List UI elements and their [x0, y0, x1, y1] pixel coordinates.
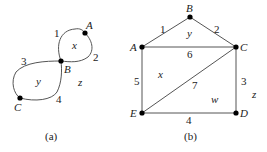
face-label-a-z: z	[77, 76, 83, 88]
edge-label-b-1: 1	[160, 23, 166, 35]
vertex-label-a-C: C	[14, 101, 22, 113]
edge-label-b-7: 7	[192, 79, 198, 91]
edge-label-b-2: 2	[214, 23, 220, 35]
vertex-label-b-D: D	[239, 107, 248, 119]
edge-label-a-1: 1	[54, 27, 60, 39]
vertex-label-b-A: A	[129, 41, 137, 53]
face-label-b-y: y	[186, 27, 192, 39]
vertex-a-B	[58, 58, 63, 63]
face-label-a-x: x	[71, 39, 77, 51]
face-label-b-w: w	[211, 93, 219, 105]
caption-a: (a)	[45, 130, 58, 143]
vertex-label-b-E: E	[129, 107, 137, 119]
vertex-b-D	[233, 110, 238, 115]
caption-b: (b)	[184, 130, 197, 143]
edge-label-b-3: 3	[241, 75, 247, 87]
face-label-b-z: z	[251, 88, 257, 100]
edge-label-a-3: 3	[21, 55, 27, 67]
vertex-a-A	[82, 30, 87, 35]
figure-a: A B C 1 2 3 4 x y z (a)	[13, 19, 98, 143]
face-label-a-y: y	[35, 75, 41, 87]
vertex-label-b-B: B	[186, 2, 193, 14]
edge-label-b-6: 6	[187, 48, 193, 60]
figure-b: A B C D E 1 2 3 4 5 6 7 y x w z (b)	[129, 2, 257, 143]
edge-label-a-2: 2	[93, 51, 99, 63]
vertex-b-E	[139, 110, 144, 115]
vertex-b-C	[233, 44, 238, 49]
edge-label-b-5: 5	[134, 75, 140, 87]
edge-b-1	[142, 17, 190, 47]
vertex-label-b-C: C	[240, 41, 248, 53]
vertex-a-C	[17, 95, 22, 100]
edge-b-2	[190, 17, 236, 47]
vertex-label-a-B: B	[64, 63, 71, 75]
vertex-b-A	[139, 44, 144, 49]
vertex-label-a-A: A	[85, 19, 93, 31]
face-label-b-x: x	[157, 68, 163, 80]
edge-label-b-4: 4	[186, 114, 192, 126]
vertex-b-B	[187, 14, 192, 19]
graph-figures: A B C 1 2 3 4 x y z (a) A B C D E 1 2 3 …	[0, 0, 267, 152]
edge-label-a-4: 4	[56, 93, 62, 105]
